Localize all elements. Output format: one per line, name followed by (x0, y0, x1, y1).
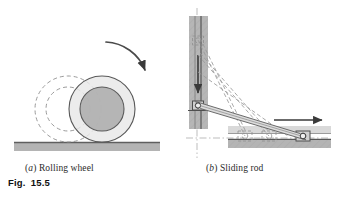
wheel-solid (69, 76, 135, 142)
wheel-hub (80, 87, 124, 131)
rotation-arrow (106, 42, 145, 70)
panel-a-rolling-wheel (14, 42, 160, 151)
panel-a-caption-text: Rolling wheel (39, 163, 94, 173)
panel-b-caption: (b) Sliding rod (206, 163, 263, 173)
panel-a-caption: (a) Rolling wheel (25, 163, 94, 173)
figure-label-prefix: Fig. (8, 177, 26, 188)
panel-a-tag-letter: a (28, 163, 33, 173)
ground-bar (14, 142, 160, 151)
panel-b-tag-letter: b (209, 163, 214, 173)
figure-page: (a) Rolling wheel (b) Sliding rod Fig.15… (0, 0, 351, 202)
figure-label: Fig.15.5 (8, 177, 50, 188)
panel-b-caption-text: Sliding rod (220, 163, 264, 173)
panel-b-sliding-rod (186, 8, 331, 158)
figure-label-number: 15.5 (31, 177, 50, 188)
